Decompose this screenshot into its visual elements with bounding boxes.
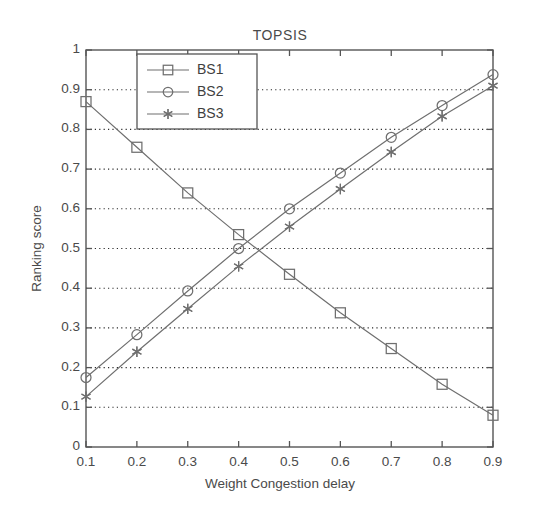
- data-point-marker: [438, 111, 447, 121]
- grid-lines: [86, 90, 493, 408]
- data-point-marker: [336, 184, 345, 194]
- x-tick-label: 0.3: [165, 454, 211, 469]
- data-point-marker: [81, 391, 90, 401]
- data-point-marker: [387, 147, 396, 157]
- data-point-marker: [183, 304, 192, 314]
- legend-entry-bs3: BS3: [197, 105, 223, 121]
- plot-canvas: [0, 0, 560, 522]
- y-tick-label: 0.1: [34, 398, 80, 413]
- y-tick-label: 1: [34, 41, 80, 56]
- legend-entry-bs1: BS1: [197, 61, 223, 77]
- y-tick-label: 0: [34, 438, 80, 453]
- x-tick-label: 0.2: [114, 454, 160, 469]
- y-tick-label: 0.5: [34, 240, 80, 255]
- y-tick-label: 0.7: [34, 160, 80, 175]
- x-tick-label: 0.4: [216, 454, 262, 469]
- x-tick-label: 0.9: [470, 454, 516, 469]
- y-tick-label: 0.2: [34, 359, 80, 374]
- y-tick-label: 0.6: [34, 200, 80, 215]
- data-point-marker: [234, 261, 243, 271]
- x-tick-label: 0.8: [419, 454, 465, 469]
- series-bs1: [81, 97, 498, 421]
- data-point-marker: [285, 221, 294, 231]
- chart-title: TOPSIS: [0, 27, 560, 43]
- y-tick-label: 0.4: [34, 279, 80, 294]
- y-tick-label: 0.3: [34, 319, 80, 334]
- legend-entry-bs2: BS2: [197, 83, 223, 99]
- chart-figure: TOPSIS Ranking score Weight Congestion d…: [0, 0, 560, 522]
- y-tick-label: 0.9: [34, 81, 80, 96]
- x-tick-label: 0.1: [63, 454, 109, 469]
- x-axis-label: Weight Congestion delay: [0, 476, 560, 491]
- x-tick-label: 0.6: [317, 454, 363, 469]
- x-tick-label: 0.7: [368, 454, 414, 469]
- y-tick-label: 0.8: [34, 120, 80, 135]
- x-tick-label: 0.5: [267, 454, 313, 469]
- data-point-marker: [132, 347, 141, 357]
